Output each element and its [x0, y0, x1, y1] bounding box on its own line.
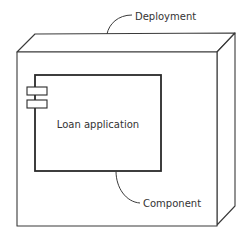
component-label: Loan application — [57, 119, 139, 130]
node-top-face — [17, 33, 235, 52]
deployment-annotation: Deployment — [135, 11, 196, 22]
deployment-leader-line — [107, 15, 132, 34]
component-annotation: Component — [143, 198, 201, 209]
component-tab-icon — [27, 100, 47, 108]
component-tab-icon — [27, 87, 47, 95]
deployment-diagram: Loan application Deployment Component — [0, 0, 246, 236]
node-side-face — [217, 33, 235, 225]
